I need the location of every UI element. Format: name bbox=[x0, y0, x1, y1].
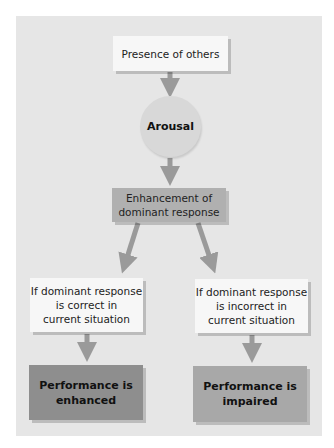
node-condition-incorrect: If dominant response is incorrect in cur… bbox=[195, 279, 308, 333]
node-label-line2: dominant response bbox=[118, 205, 219, 219]
node-label-line1: If dominant response bbox=[31, 284, 142, 298]
node-result-impaired: Performance is impaired bbox=[193, 366, 307, 422]
node-label: Presence of others bbox=[122, 47, 220, 61]
node-label-line1: If dominant response bbox=[196, 285, 307, 299]
node-label-line1: Performance is bbox=[39, 378, 133, 393]
node-label-line3: current situation bbox=[208, 313, 295, 327]
arrow-enhancement-to-incorrect bbox=[198, 223, 212, 264]
node-label-line3: current situation bbox=[43, 312, 130, 326]
node-label-line2: impaired bbox=[222, 394, 277, 409]
node-label-line1: Enhancement of bbox=[126, 191, 212, 205]
node-label-line2: enhanced bbox=[56, 393, 116, 408]
node-result-enhanced: Performance is enhanced bbox=[29, 365, 143, 420]
node-enhancement: Enhancement of dominant response bbox=[112, 188, 226, 222]
node-condition-correct: If dominant response is correct in curre… bbox=[30, 278, 143, 332]
node-label-line2: is incorrect in bbox=[216, 299, 287, 313]
node-label-line1: Performance is bbox=[203, 379, 297, 394]
arrow-enhancement-to-correct bbox=[125, 223, 138, 264]
node-arousal: Arousal bbox=[140, 96, 201, 157]
node-label: Arousal bbox=[147, 120, 194, 133]
node-presence-of-others: Presence of others bbox=[113, 36, 228, 71]
node-label-line2: is correct in bbox=[56, 298, 117, 312]
